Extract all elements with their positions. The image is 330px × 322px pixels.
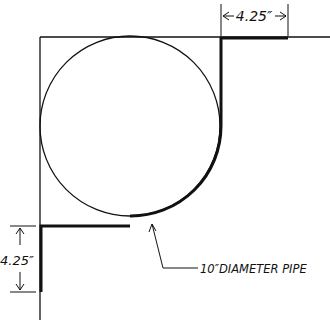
pipe-callout-label: 10″DIAMETER PIPE [200, 262, 307, 276]
pipe-corner-diagram: 4.25″ 4.25″ 10″DIAMETER PIPE [0, 0, 330, 322]
left-dimension-label: 4.25″ [0, 253, 34, 268]
pipe-callout: 10″DIAMETER PIPE [149, 224, 307, 276]
left-dimension: 4.25″ [0, 226, 36, 292]
top-dimension-label: 4.25″ [236, 8, 273, 24]
heavy-outline-left [41, 226, 130, 292]
top-dimension: 4.25″ [221, 4, 288, 36]
pipe-circle [40, 36, 220, 216]
heavy-outline-right [130, 38, 288, 216]
